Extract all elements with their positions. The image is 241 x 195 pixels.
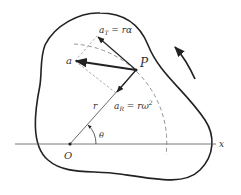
label-p: P xyxy=(139,56,149,70)
origin-point xyxy=(68,142,71,145)
label-r: r xyxy=(93,101,98,111)
kinematics-diagram: P O x r θ a aT = rα aR = rω2 xyxy=(0,0,241,195)
label-a: a xyxy=(66,55,72,66)
radial-accel-vector xyxy=(117,70,136,92)
label-origin: O xyxy=(64,150,72,161)
dashed-construction-1 xyxy=(75,36,97,61)
label-x-axis: x xyxy=(219,139,224,149)
theta-arc xyxy=(88,125,96,144)
rigid-body-outline xyxy=(35,13,212,180)
label-a-tangential: aT = rα xyxy=(99,25,132,36)
dashed-arc xyxy=(74,44,167,155)
label-a-radial: aR = rω2 xyxy=(114,99,153,112)
rotation-direction-arrow xyxy=(175,47,195,79)
label-theta: θ xyxy=(99,131,104,140)
